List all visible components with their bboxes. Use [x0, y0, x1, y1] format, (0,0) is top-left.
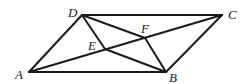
- point-label-d: D: [67, 5, 78, 20]
- point-label-e: E: [87, 38, 96, 53]
- point-label-a: A: [14, 67, 23, 82]
- segment-eb: [105, 49, 166, 72]
- segment-df: [82, 15, 145, 38]
- point-label-c: C: [228, 7, 237, 22]
- diagram-canvas: A B C D E F: [0, 0, 248, 84]
- geometry-diagram: A B C D E F: [0, 0, 248, 84]
- segment-fb: [145, 38, 166, 72]
- point-label-f: F: [140, 21, 150, 36]
- point-label-b: B: [169, 70, 177, 84]
- segments-group: [29, 15, 222, 72]
